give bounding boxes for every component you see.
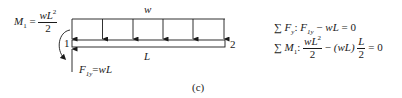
moment-denominator: 2 (38, 23, 57, 35)
moment-fraction: wL2 2 (38, 10, 57, 34)
eq2-frac1-num: wL (304, 35, 317, 47)
eq1-term1: F (300, 21, 307, 33)
equation-force-balance: ∑ Fy: F1y − wL = 0 (274, 21, 356, 33)
eq1-colon: : (294, 21, 297, 33)
eq2-frac1-sup: 2 (318, 34, 322, 42)
eq1-op: − (316, 21, 322, 33)
moment-equals: = (29, 15, 35, 27)
node-2-label: 2 (230, 39, 236, 50)
eq1-equals-zero: = 0 (342, 21, 356, 33)
reaction-value: wL (99, 63, 112, 75)
node-1-label: 1 (64, 38, 70, 49)
eq1-term2: wL (325, 21, 338, 33)
moment-label: M1 = wL2 2 (14, 10, 57, 34)
figure-caption: (c) (192, 82, 204, 93)
distributed-load (72, 19, 225, 39)
eq2-var: M (285, 41, 294, 53)
moment-subscript: 1 (23, 22, 27, 30)
moment-numerator-exponent: 2 (53, 8, 57, 16)
moment-symbol: M (14, 15, 23, 27)
eq2-fraction-2: L 2 (357, 36, 365, 60)
eq2-frac2-den: 2 (357, 49, 365, 61)
eq2-colon: : (297, 41, 300, 53)
sigma-symbol: ∑ (274, 41, 282, 53)
reaction-label: F1y=wL (79, 64, 112, 75)
eq2-frac1-den: 2 (303, 49, 322, 61)
length-label: L (144, 51, 150, 62)
eq2-op: − (325, 41, 331, 53)
eq2-frac2-num: L (357, 36, 365, 49)
load-label: w (144, 4, 151, 15)
moment-numerator: wL (39, 9, 52, 21)
eq2-equals-zero: = 0 (368, 41, 382, 53)
eq2-paren: (wL) (334, 41, 355, 53)
eq2-fraction-1: wL2 2 (303, 36, 322, 60)
reaction-symbol: F (79, 63, 86, 75)
beam (72, 40, 225, 47)
sigma-symbol: ∑ (274, 21, 282, 33)
equation-moment-balance: ∑ M1: wL2 2 − (wL) L 2 = 0 (274, 36, 383, 60)
